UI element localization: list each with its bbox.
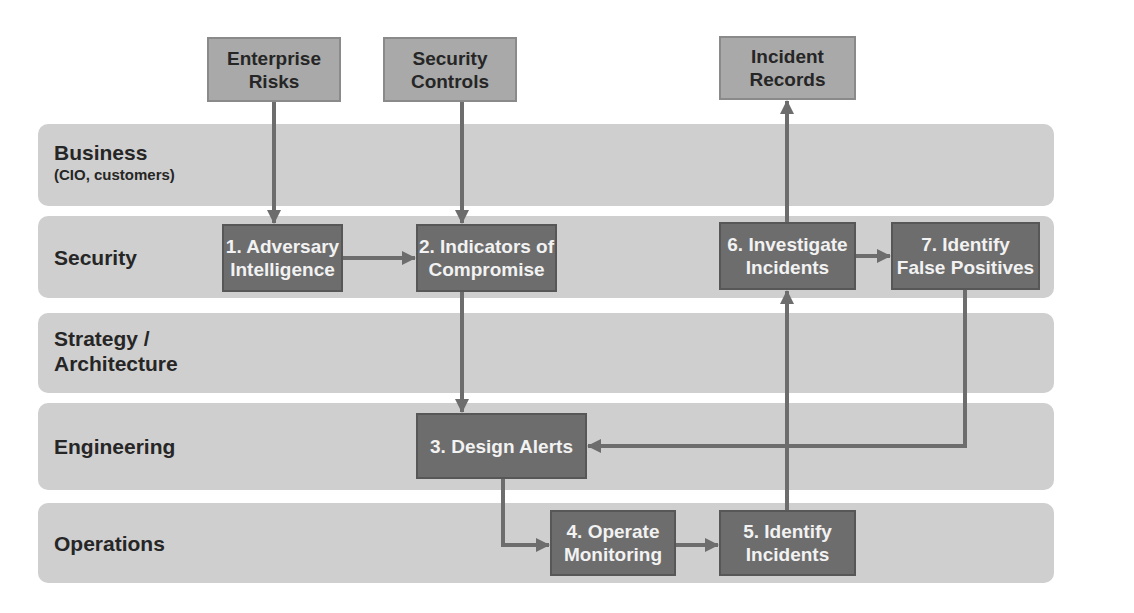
step-2-indicators-of-compromise: 2. Indicators of Compromise — [416, 224, 557, 292]
lane-strategy-architecture: Strategy / Architecture — [38, 313, 1054, 393]
step-6-investigate-incidents: 6. Investigate Incidents — [719, 222, 856, 290]
lane-label-operations: Operations — [54, 531, 165, 556]
input-security-controls: Security Controls — [383, 37, 517, 102]
step-5-identify-incidents: 5. Identify Incidents — [719, 510, 856, 576]
lane-label-security: Security — [54, 245, 137, 270]
lane-sublabel-business: (CIO, customers) — [54, 165, 175, 185]
input-enterprise-risks: Enterprise Risks — [207, 37, 341, 102]
lane-title-business: Business — [54, 141, 147, 164]
lane-label-engineering: Engineering — [54, 434, 175, 459]
lane-operations: Operations — [38, 503, 1054, 583]
step-3-design-alerts: 3. Design Alerts — [416, 413, 587, 479]
step-1-adversary-intelligence: 1. Adversary Intelligence — [222, 224, 343, 292]
lane-label-business: Business (CIO, customers) — [54, 140, 175, 185]
output-incident-records: Incident Records — [719, 36, 856, 100]
step-7-identify-false-positives: 7. Identify False Positives — [891, 222, 1040, 290]
lane-label-strategy-architecture: Strategy / Architecture — [54, 326, 178, 376]
lane-business: Business (CIO, customers) — [38, 124, 1054, 206]
step-4-operate-monitoring: 4. Operate Monitoring — [550, 510, 676, 576]
